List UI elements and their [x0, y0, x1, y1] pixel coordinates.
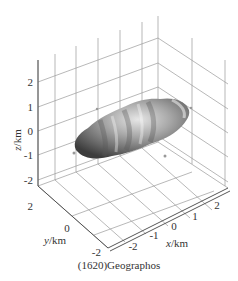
asteroid-3d-plot: 2 1 0 -1 -2 z/km 2 0 -2 y/km -2 -1 0 1 2…: [0, 0, 238, 260]
svg-text:-2: -2: [128, 240, 137, 252]
z-axis-ticks: 2 1 0 -1 -2: [24, 76, 34, 186]
svg-text:0: 0: [171, 220, 177, 232]
svg-text:0: 0: [64, 222, 70, 234]
svg-text:2: 2: [28, 76, 34, 88]
y-axis-label: y/km: [43, 234, 66, 246]
asteroid-shape: [73, 98, 193, 158]
x-axis-label: x/km: [165, 237, 188, 249]
svg-text:2: 2: [214, 199, 220, 211]
svg-text:2: 2: [28, 200, 34, 212]
z-axis-label: z/km: [11, 129, 23, 152]
svg-text:-1: -1: [149, 229, 158, 241]
svg-text:-2: -2: [24, 174, 33, 186]
svg-text:1: 1: [192, 210, 198, 222]
svg-text:-2: -2: [92, 246, 101, 258]
svg-text:1: 1: [28, 101, 34, 113]
svg-text:0: 0: [28, 125, 34, 137]
figure-caption: (1620)Geographos: [0, 259, 238, 271]
svg-text:-1: -1: [24, 149, 33, 161]
